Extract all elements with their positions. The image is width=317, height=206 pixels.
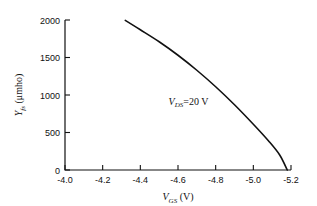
y-axis-title: Yfs (μmho) xyxy=(13,74,27,117)
x-tick-label: -4.4 xyxy=(133,175,149,185)
x-tick-label: -5.0 xyxy=(246,175,262,185)
y-tick-label: 2000 xyxy=(40,16,60,26)
x-tick-marks xyxy=(65,165,291,170)
annotation-group: VDS=20 V xyxy=(169,96,210,110)
vds-annotation-subscript: DS xyxy=(174,101,184,109)
x-axis-title: VGS (V) xyxy=(162,191,193,205)
y-axis-title-unit: (μmho) xyxy=(13,74,25,106)
x-tick-label: -5.2 xyxy=(283,175,299,185)
x-axis-title-unit: (V) xyxy=(177,191,193,203)
x-tick-label: -4.2 xyxy=(95,175,111,185)
axes-group xyxy=(65,20,291,170)
x-tick-label: -4.0 xyxy=(57,175,73,185)
vds-annotation-value: =20 V xyxy=(183,96,209,107)
x-tick-labels: -4.0-4.2-4.4-4.6-4.8-5.0-5.2 xyxy=(57,175,299,185)
axis-lines xyxy=(65,20,291,170)
x-tick-label: -4.8 xyxy=(208,175,224,185)
y-tick-label: 1500 xyxy=(40,53,60,63)
chart-figure: -4.0-4.2-4.4-4.6-4.8-5.0-5.2 05001000150… xyxy=(0,0,317,206)
y-tick-marks xyxy=(65,20,70,170)
y-tick-label: 0 xyxy=(55,166,60,176)
y-tick-label: 1000 xyxy=(40,91,60,101)
chart-canvas: -4.0-4.2-4.4-4.6-4.8-5.0-5.2 05001000150… xyxy=(0,0,317,206)
vds-annotation: VDS=20 V xyxy=(169,96,210,110)
y-tick-label: 500 xyxy=(45,128,60,138)
y-tick-labels: 0500100015002000 xyxy=(40,16,60,176)
x-tick-label: -4.6 xyxy=(170,175,186,185)
